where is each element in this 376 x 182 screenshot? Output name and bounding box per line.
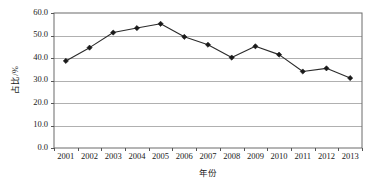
x-axis-tick-label: 2008 — [223, 151, 240, 161]
x-axis-tick-label: 2001 — [57, 151, 74, 161]
line-chart: 0.010.020.030.040.050.060.0 200120022003… — [0, 0, 376, 182]
y-axis-tick-label: 60.0 — [33, 7, 48, 17]
x-axis-tick-label: 2010 — [271, 151, 288, 161]
y-axis-tick-label: 40.0 — [33, 52, 48, 62]
x-axis-tick-label: 2002 — [81, 151, 98, 161]
x-axis-title: 年份 — [199, 168, 217, 178]
x-axis-tick-label: 2003 — [105, 151, 122, 161]
y-axis-title: 占比/% — [10, 66, 20, 93]
x-axis-tick-label: 2009 — [247, 151, 264, 161]
x-axis-tick-label: 2006 — [176, 151, 193, 161]
y-axis-tick-label: 50.0 — [33, 29, 48, 39]
y-axis-tick-label: 30.0 — [33, 74, 48, 84]
chart-canvas: 0.010.020.030.040.050.060.0 200120022003… — [0, 0, 376, 182]
y-axis-tick-label: 10.0 — [33, 119, 48, 129]
x-axis-tick-label: 2007 — [200, 151, 217, 161]
x-axis-tick-label: 2013 — [342, 151, 359, 161]
y-axis-tick-label: 0.0 — [37, 142, 48, 152]
x-axis-tick-label: 2012 — [318, 151, 335, 161]
y-axis-tick-label: 20.0 — [33, 97, 48, 107]
x-axis-tick-label: 2005 — [152, 151, 169, 161]
x-axis-tick-label: 2004 — [128, 151, 146, 161]
x-axis-tick-label: 2011 — [294, 151, 311, 161]
